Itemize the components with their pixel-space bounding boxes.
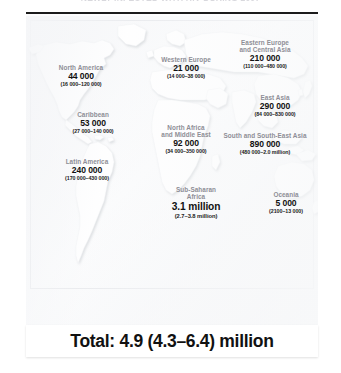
region-range: (110 000–480 000) bbox=[212, 64, 318, 70]
region-label-oceania: Oceania 5 000 (2100–13 000) bbox=[248, 191, 318, 215]
region-value: 3.1 million bbox=[148, 201, 244, 212]
region-range: (84 000–830 000) bbox=[230, 112, 318, 118]
region-value: 240 000 bbox=[32, 166, 142, 176]
region-name: North Africa bbox=[136, 124, 236, 131]
region-label-east-asia: East Asia 290 000 (84 000–830 000) bbox=[230, 94, 318, 118]
total-banner: Total: 4.9 (4.3–6.4) million bbox=[26, 325, 318, 357]
region-value: 53 000 bbox=[38, 119, 148, 129]
region-label-sub-saharan-africa: Sub-Saharan Africa 3.1 million (2.7–3.8 … bbox=[148, 186, 244, 219]
total-label: Total: 4.9 (4.3–6.4) million bbox=[70, 331, 273, 352]
figure-title-strip: NEWLY INFECTED WITH HIV DURING 2007 bbox=[0, 0, 341, 9]
region-label-caribbean: Caribbean 53 000 (27 000–140 000) bbox=[38, 111, 148, 135]
world-map-canvas: North America 44 000 (16 000–120 000) Ca… bbox=[26, 16, 318, 325]
region-value: 890 000 bbox=[212, 140, 318, 150]
region-name: Sub-Saharan bbox=[148, 186, 244, 193]
region-value: 5 000 bbox=[248, 199, 318, 209]
figure-title: NEWLY INFECTED WITH HIV DURING 2007 bbox=[81, 0, 260, 3]
region-value: 44 000 bbox=[26, 72, 136, 82]
region-range: (170 000–430 000) bbox=[32, 176, 142, 182]
region-range: (27 000–140 000) bbox=[38, 129, 148, 135]
world-map-panel: North America 44 000 (16 000–120 000) Ca… bbox=[26, 12, 318, 325]
region-value: 290 000 bbox=[230, 102, 318, 112]
region-range: (14 000–38 000) bbox=[138, 74, 234, 80]
region-label-south-and-south-east-asia: South and South-East Asia 890 000 (480 0… bbox=[212, 132, 318, 156]
region-label-latin-america: Latin America 240 000 (170 000–430 000) bbox=[32, 158, 142, 182]
region-label-north-america: North America 44 000 (16 000–120 000) bbox=[26, 64, 136, 88]
region-range: (480 000–2.0 million) bbox=[212, 150, 318, 156]
region-label-eastern-europe-central-asia: Eastern Europe and Central Asia 210 000 … bbox=[212, 39, 318, 70]
region-range: (2.7–3.8 million) bbox=[148, 213, 244, 219]
region-range: (2100–13 000) bbox=[248, 209, 318, 215]
region-name-line2: Africa bbox=[148, 193, 244, 200]
hiv-infections-world-map-figure: NEWLY INFECTED WITH HIV DURING 2007 bbox=[0, 0, 341, 373]
region-name: Eastern Europe bbox=[212, 39, 318, 46]
region-range: (16 000–120 000) bbox=[26, 82, 136, 88]
